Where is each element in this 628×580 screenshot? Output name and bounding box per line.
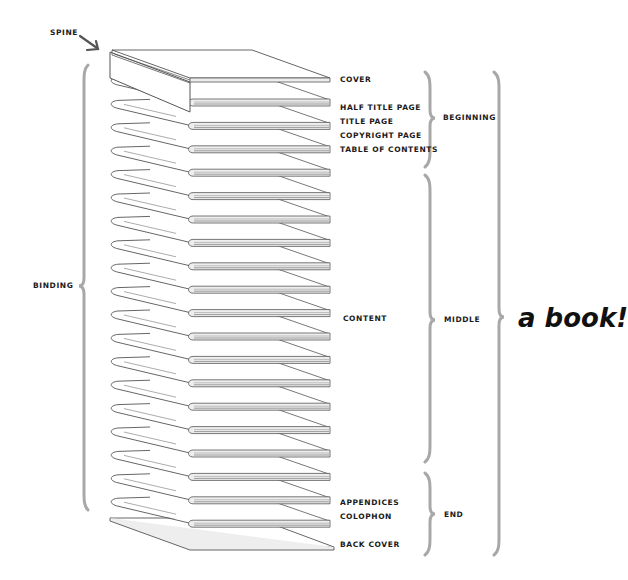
diagram-title: a book! bbox=[518, 305, 628, 331]
label-colophon: COLOPHON bbox=[340, 513, 392, 521]
label-content: CONTENT bbox=[343, 315, 387, 323]
section-beginning-label: BEGINNING bbox=[443, 114, 496, 122]
whole-book-brace bbox=[494, 72, 504, 555]
spine-label: SPINE bbox=[50, 29, 78, 37]
page-stack bbox=[110, 73, 334, 550]
label-appendices: APPENDICES bbox=[340, 499, 399, 507]
section-end-label: END bbox=[444, 511, 463, 519]
middle-brace bbox=[425, 175, 435, 462]
label-cover: COVER bbox=[340, 76, 371, 84]
section-middle-label: MIDDLE bbox=[444, 316, 480, 324]
label-table-of-contents: TABLE OF CONTENTS bbox=[340, 146, 438, 154]
label-title-page: TITLE PAGE bbox=[340, 118, 393, 126]
binding-label: BINDING bbox=[33, 282, 73, 290]
label-back-cover: BACK COVER bbox=[340, 541, 400, 549]
label-copyright-page: COPYRIGHT PAGE bbox=[340, 132, 422, 140]
end-brace bbox=[425, 473, 435, 555]
label-half-title-page: HALF TITLE PAGE bbox=[340, 104, 421, 112]
binding-brace bbox=[79, 65, 88, 510]
spine-arrow-icon bbox=[80, 36, 98, 50]
